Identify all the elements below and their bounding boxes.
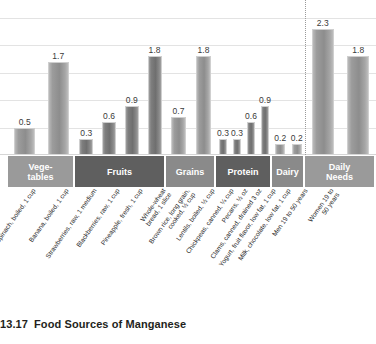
bar-value-label: 0.9 — [251, 95, 279, 105]
figure-number: 13.17 — [0, 318, 28, 330]
bar-value-label: 1.8 — [141, 45, 169, 55]
bar-value-label: 1.8 — [190, 45, 218, 55]
figure-food-sources-of-manganese: 0.51.70.30.60.91.80.71.80.30.30.60.90.20… — [0, 0, 376, 344]
bar — [196, 56, 212, 155]
daily-needs-divider — [305, 0, 306, 155]
bar-value-label: 2.3 — [309, 18, 337, 28]
figure-title: Food Sources of Manganese — [34, 318, 186, 330]
bar-value-label: 0.7 — [165, 106, 193, 116]
figure-caption: 13.17Food Sources of Manganese — [0, 318, 376, 330]
bar — [14, 128, 35, 155]
x-tick-label-text: Pineapple, fresh, 1 cup — [99, 187, 144, 247]
chart-plot-area: 0.51.70.30.60.91.80.71.80.30.30.60.90.20… — [0, 0, 376, 155]
bar-value-label: 0.3 — [72, 128, 100, 138]
bar-value-label: 0.9 — [118, 95, 146, 105]
bar-value-label: 0.6 — [95, 111, 123, 121]
x-tick-label-row: Spinach, boiled, 1 cupBanana, boiled, 1 … — [0, 187, 376, 312]
bar-value-label: 1.7 — [44, 51, 72, 61]
x-tick-label-text: Blackberries, raw, 1 cup — [75, 187, 121, 249]
bar-value-label: 1.8 — [344, 45, 372, 55]
bar — [347, 56, 369, 155]
bar-value-label: 0.5 — [11, 117, 39, 127]
x-tick-label-text: Women 19 to 50 years — [302, 187, 341, 234]
